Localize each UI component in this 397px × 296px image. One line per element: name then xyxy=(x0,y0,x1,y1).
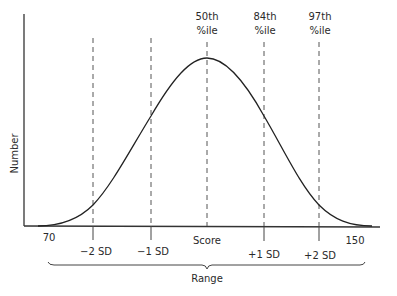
range-brace xyxy=(48,262,365,269)
normal-curve xyxy=(38,58,372,226)
sd-label-plus2: +2 SD xyxy=(304,250,336,262)
y-axis-label: Number xyxy=(9,133,20,173)
percentile-50-line1: 50th xyxy=(196,11,219,23)
sd-label-plus1: +1 SD xyxy=(248,249,280,261)
percentile-97-line2: %ile xyxy=(309,25,330,37)
max-score-label: 150 xyxy=(345,235,364,247)
percentile-97-line1: 97th xyxy=(309,11,332,23)
percentile-50-line2: %ile xyxy=(196,25,217,37)
x-axis-label: Score xyxy=(193,235,221,247)
bell-curve-diagram xyxy=(0,0,397,296)
sd-dashed-lines xyxy=(93,38,319,226)
min-score-label: 70 xyxy=(43,232,56,244)
sd-label-minus1: −1 SD xyxy=(137,246,169,258)
percentile-84-line1: 84th xyxy=(254,11,277,23)
x-axis xyxy=(24,226,380,227)
sd-label-minus2: −2 SD xyxy=(80,246,112,258)
percentile-84-line2: %ile xyxy=(254,25,275,37)
range-label: Range xyxy=(191,273,223,285)
